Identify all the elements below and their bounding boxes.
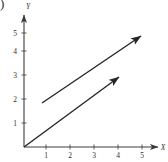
series-line-upper-ray <box>42 36 141 103</box>
x-tick-label-5: 5 <box>140 151 144 160</box>
x-tick-label-3: 3 <box>92 151 96 160</box>
graph-figure: ) 1 2 3 4 5 <box>0 0 168 162</box>
series-line-lower-ray <box>24 77 119 147</box>
y-tick-label-5: 5 <box>13 29 17 38</box>
axis-group <box>24 15 158 147</box>
x-axis-label: X <box>160 143 166 152</box>
y-axis-label: Y <box>26 2 31 11</box>
data-series-group <box>24 36 141 147</box>
y-tick-label-1: 1 <box>13 119 17 128</box>
y-tick-label-2: 2 <box>13 95 17 104</box>
y-tick-label-4: 4 <box>13 47 17 56</box>
corner-paren-mark: ) <box>0 0 4 11</box>
x-tick-label-2: 2 <box>68 151 72 160</box>
y-tick-label-3: 3 <box>13 71 17 80</box>
x-tick-label-1: 1 <box>44 151 48 160</box>
coordinate-plot-svg: 1 2 3 4 5 1 2 3 4 5 X Y <box>0 0 168 162</box>
x-tick-label-4: 4 <box>116 151 120 160</box>
